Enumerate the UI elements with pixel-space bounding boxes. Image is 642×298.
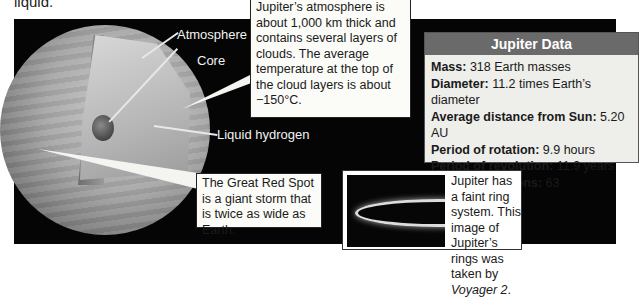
label-liquid-hydrogen: Liquid hydrogen xyxy=(217,127,310,142)
label-atmosphere: Atmosphere xyxy=(177,27,247,42)
data-row-rotation: Period of rotation: 9.9 hours xyxy=(431,142,632,159)
jupiter-data-box: Jupiter Data Mass: 318 Earth masses Diam… xyxy=(424,32,639,163)
data-box-title: Jupiter Data xyxy=(425,33,638,55)
atmosphere-callout-text: Jupiter’s atmosphere is about 1,000 km t… xyxy=(256,0,397,107)
rings-caption: Jupiter has a faint ring system. This im… xyxy=(451,174,521,298)
red-spot-callout-text: The Great Red Spot is a giant storm that… xyxy=(202,176,314,237)
data-row-diameter: Diameter: 11.2 times Earth’s diameter xyxy=(431,76,632,109)
rings-figure: Jupiter has a faint ring system. This im… xyxy=(342,170,522,250)
ring-arc xyxy=(355,199,445,227)
label-core: Core xyxy=(197,53,225,68)
red-spot-callout: The Great Red Spot is a giant storm that… xyxy=(196,173,322,228)
data-row-mass: Mass: 318 Earth masses xyxy=(431,59,632,76)
data-row-distance: Average distance from Sun: 5.20 AU xyxy=(431,109,632,142)
atmosphere-callout: Jupiter’s atmosphere is about 1,000 km t… xyxy=(250,0,411,118)
rings-image xyxy=(347,175,445,247)
intro-text-fragment: liquid. xyxy=(14,0,53,10)
